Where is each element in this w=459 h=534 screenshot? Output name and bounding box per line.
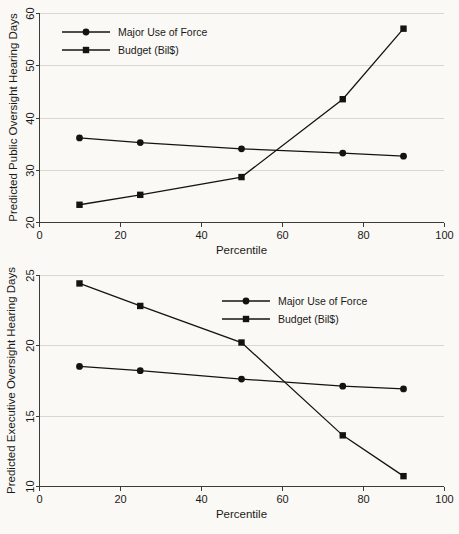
legend: Major Use of ForceBudget (Bil$) <box>222 295 367 325</box>
data-point-1-2 <box>238 174 244 180</box>
legend-marker-0 <box>243 298 250 305</box>
data-point-1-0 <box>76 280 82 286</box>
data-point-0-2 <box>238 145 245 152</box>
data-point-1-1 <box>137 192 143 198</box>
x-tick-label-0: 0 <box>36 229 42 241</box>
legend-label-1: Budget (Bil$) <box>278 313 339 325</box>
data-point-1-3 <box>340 432 346 438</box>
legend: Major Use of ForceBudget (Bil$) <box>62 26 207 56</box>
plot-area-executive-oversight: 10152025020406080100PercentilePredicted … <box>0 260 459 534</box>
data-point-0-0 <box>76 134 83 141</box>
x-axis-title: Percentile <box>216 508 267 520</box>
legend-marker-0 <box>83 29 90 36</box>
y-axis-title: Predicted Public Oversight Hearing Days <box>7 13 19 222</box>
chart-executive-oversight: 10152025020406080100PercentilePredicted … <box>0 260 459 534</box>
x-tick-label-40: 40 <box>195 493 207 505</box>
data-point-1-1 <box>137 303 143 309</box>
legend-label-1: Budget (Bil$) <box>118 44 179 56</box>
y-tick-label-10: 10 <box>24 480 36 492</box>
x-tick-label-60: 60 <box>276 229 288 241</box>
legend-marker-1 <box>83 47 89 53</box>
x-tick-label-60: 60 <box>276 493 288 505</box>
x-tick-label-40: 40 <box>195 229 207 241</box>
x-tick-label-100: 100 <box>435 229 453 241</box>
y-tick-label-25: 25 <box>24 269 36 281</box>
x-tick-label-80: 80 <box>357 493 369 505</box>
y-tick-label-15: 15 <box>24 410 36 422</box>
y-tick-label-30: 30 <box>24 164 36 176</box>
y-tick-label-40: 40 <box>24 112 36 124</box>
y-tick-label-50: 50 <box>24 59 36 71</box>
y-tick-label-60: 60 <box>24 7 36 19</box>
data-point-0-1 <box>137 139 144 146</box>
x-axis-title: Percentile <box>216 244 267 256</box>
y-tick-label-20: 20 <box>24 339 36 351</box>
legend-label-0: Major Use of Force <box>118 26 207 38</box>
data-point-0-2 <box>238 376 245 383</box>
y-tick-label-20: 20 <box>24 216 36 228</box>
data-point-1-4 <box>400 25 406 31</box>
plot-area-public-oversight: 2030405060020406080100PercentilePredicte… <box>0 0 459 260</box>
chart-public-oversight: 2030405060020406080100PercentilePredicte… <box>0 0 459 260</box>
x-tick-label-20: 20 <box>114 229 126 241</box>
data-point-1-0 <box>76 202 82 208</box>
x-tick-label-100: 100 <box>435 493 453 505</box>
data-point-1-3 <box>340 96 346 102</box>
legend-marker-1 <box>243 316 249 322</box>
x-tick-label-20: 20 <box>114 493 126 505</box>
y-axis-title: Predicted Executive Oversight Hearing Da… <box>5 267 17 494</box>
data-point-1-4 <box>400 473 406 479</box>
data-point-1-2 <box>238 339 244 345</box>
data-point-0-3 <box>339 150 346 157</box>
data-point-0-4 <box>400 386 407 393</box>
data-point-0-0 <box>76 363 83 370</box>
x-tick-label-80: 80 <box>357 229 369 241</box>
data-point-0-3 <box>339 383 346 390</box>
data-point-0-1 <box>137 367 144 374</box>
legend-label-0: Major Use of Force <box>278 295 367 307</box>
data-point-0-4 <box>400 153 407 160</box>
x-tick-label-0: 0 <box>36 493 42 505</box>
